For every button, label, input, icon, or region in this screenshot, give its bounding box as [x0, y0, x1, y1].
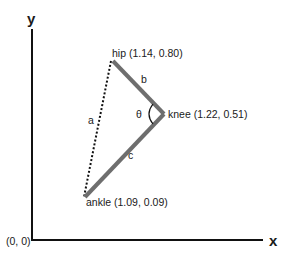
- x-axis-label: x: [269, 232, 278, 249]
- segment-c-label: c: [128, 149, 133, 161]
- ankle-label: ankle (1.09, 0.09): [86, 196, 168, 208]
- segment-c: [85, 114, 164, 197]
- knee-label: knee (1.22, 0.51): [168, 108, 247, 120]
- segment-b: [113, 61, 164, 114]
- angle-theta-label: θ: [136, 108, 142, 120]
- hip-label: hip (1.14, 0.80): [112, 47, 183, 59]
- segment-a-label: a: [88, 114, 94, 126]
- segment-b-label: b: [141, 73, 147, 85]
- y-axis-label: y: [27, 10, 36, 27]
- angle-arc: [149, 104, 153, 124]
- origin-label: (0, 0): [6, 235, 31, 247]
- axes: y x (0, 0): [6, 10, 278, 249]
- knee-angle-diagram: y x (0, 0) a b c θ hip (1.14, 0.80) knee…: [0, 0, 290, 255]
